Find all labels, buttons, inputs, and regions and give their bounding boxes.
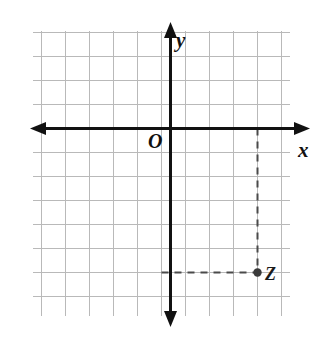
point-z-marker[interactable] xyxy=(253,268,261,276)
point-z-label: Z xyxy=(264,264,276,284)
origin-label: O xyxy=(148,130,162,152)
x-axis-label: x xyxy=(297,138,309,162)
coordinate-plane-figure: O y x Z xyxy=(0,0,322,347)
coordinate-plane-svg: O y x Z xyxy=(0,0,322,347)
